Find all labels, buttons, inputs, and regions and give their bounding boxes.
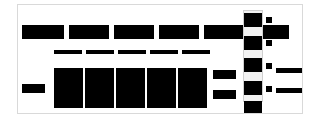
sidebar-item[interactable]	[244, 58, 262, 72]
screenshot-canvas	[0, 0, 321, 120]
value-box	[213, 70, 236, 79]
row-label-redaction	[22, 84, 45, 93]
header-block	[22, 25, 64, 39]
subtitle-bar	[54, 50, 82, 54]
content-block	[178, 68, 207, 108]
header-block	[159, 25, 199, 39]
bullet-marker-icon	[266, 17, 272, 23]
sidebar-item[interactable]	[244, 36, 262, 50]
content-block	[85, 68, 114, 108]
sidebar-item[interactable]	[244, 13, 262, 27]
marker-bar	[276, 88, 302, 93]
header-block	[69, 25, 109, 39]
value-box	[213, 90, 236, 99]
content-block	[147, 68, 176, 108]
subtitle-bar	[86, 50, 114, 54]
subtitle-bar	[118, 50, 146, 54]
bullet-marker-icon	[266, 40, 272, 46]
bullet-marker-icon	[266, 63, 272, 69]
subtitle-bar	[182, 50, 210, 54]
sidebar-item[interactable]	[244, 101, 262, 113]
header-block	[114, 25, 154, 39]
marker-bar	[276, 68, 302, 73]
header-block	[204, 25, 244, 39]
bullet-marker-icon	[266, 86, 272, 92]
content-block	[116, 68, 145, 108]
sidebar-item[interactable]	[244, 81, 262, 95]
content-block	[54, 68, 83, 108]
subtitle-bar	[150, 50, 178, 54]
